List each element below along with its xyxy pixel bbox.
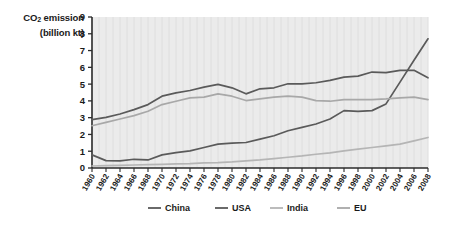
x-axis-tick-label: 1966 bbox=[122, 172, 139, 192]
x-axis-tick-label: 1984 bbox=[248, 172, 265, 192]
y-axis-tick-label: 0 bbox=[80, 162, 85, 173]
co2-emission-line-chart: CO2 emission (billion kt) 0123456789 196… bbox=[0, 0, 451, 225]
chart-legend: ChinaUSAIndiaEU bbox=[148, 203, 367, 213]
x-axis-tick-label: 2000 bbox=[360, 172, 377, 192]
x-axis-tick-label: 1986 bbox=[262, 172, 279, 192]
x-axis-tick-label: 2002 bbox=[374, 172, 391, 192]
x-axis-tick-label: 1968 bbox=[136, 172, 153, 192]
x-axis-tick-label: 1978 bbox=[206, 172, 223, 192]
y-axis-title-line2: (billion kt) bbox=[40, 27, 84, 38]
x-axis-tick-label: 2006 bbox=[402, 172, 419, 192]
x-axis-tick-label: 1974 bbox=[178, 172, 195, 192]
x-axis-tick-label: 1970 bbox=[150, 172, 167, 192]
x-axis-tick-label: 1988 bbox=[276, 172, 293, 192]
x-axis-tick-label: 1994 bbox=[318, 172, 335, 192]
x-axis-tick-label: 1996 bbox=[332, 172, 349, 192]
y-axis-tick-label: 2 bbox=[80, 129, 85, 140]
x-axis-tick-label: 1998 bbox=[346, 172, 363, 192]
x-axis-tick-label: 1976 bbox=[192, 172, 209, 192]
y-axis-tick-label: 5 bbox=[80, 79, 86, 90]
x-axis-tick-label: 1982 bbox=[234, 172, 251, 192]
x-axis-tick-label: 1990 bbox=[290, 172, 307, 192]
y-axis-tick-label: 1 bbox=[80, 146, 86, 157]
x-axis: 1960196219641966196819701972197419761978… bbox=[80, 168, 433, 192]
legend-label-eu: EU bbox=[354, 203, 367, 213]
x-axis-tick-label: 1972 bbox=[164, 172, 181, 192]
y-axis-tick-label: 6 bbox=[80, 62, 85, 73]
y-axis-tick-label: 4 bbox=[80, 95, 86, 106]
y-axis-title-line1: CO2 emission bbox=[23, 12, 84, 23]
x-axis-tick-label: 1964 bbox=[108, 172, 125, 192]
x-axis-tick-label: 1962 bbox=[94, 172, 111, 192]
x-axis-tick-label: 1960 bbox=[80, 172, 97, 192]
legend-label-india: India bbox=[287, 203, 309, 213]
x-axis-tick-label: 2004 bbox=[388, 172, 405, 192]
y-axis-tick-label: 7 bbox=[80, 45, 85, 56]
x-axis-tick-label: 2008 bbox=[416, 172, 433, 192]
legend-label-china: China bbox=[165, 203, 191, 213]
y-axis-tick-label: 3 bbox=[80, 112, 85, 123]
legend-label-usa: USA bbox=[232, 203, 252, 213]
x-axis-tick-label: 1980 bbox=[220, 172, 237, 192]
y-axis-title: CO2 emission (billion kt) bbox=[0, 12, 84, 39]
x-axis-tick-label: 1992 bbox=[304, 172, 321, 192]
